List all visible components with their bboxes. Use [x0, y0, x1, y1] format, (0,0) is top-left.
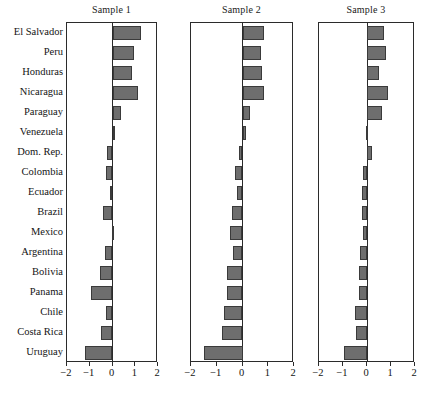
bar [113, 106, 122, 120]
x-axis-1: −2−1012 [190, 362, 293, 384]
bar [243, 66, 262, 80]
category-label: Ecuador [0, 187, 63, 198]
x-tick-label: −1 [210, 367, 221, 378]
panel-sample-3 [318, 22, 414, 362]
bar [367, 26, 384, 40]
category-label: Bolivia [0, 267, 63, 278]
category-label: Peru [0, 47, 63, 58]
bar [224, 306, 243, 320]
panel-title-2: Sample 3 [318, 4, 414, 15]
bar [227, 286, 243, 300]
bar [362, 206, 367, 220]
bar [243, 126, 246, 140]
category-label: Chile [0, 307, 63, 318]
x-tick [414, 362, 415, 366]
x-tick-label: 2 [154, 367, 159, 378]
x-tick [342, 362, 343, 366]
bar [367, 86, 388, 100]
x-tick [134, 362, 135, 366]
x-tick [112, 362, 113, 366]
category-label: Colombia [0, 167, 63, 178]
category-labels: El SalvadorPeruHondurasNicaraguaParaguay… [0, 22, 63, 362]
bar [362, 186, 367, 200]
bar [106, 306, 113, 320]
category-label: Honduras [0, 67, 63, 78]
bar [103, 206, 112, 220]
x-tick [366, 362, 367, 366]
bar [222, 326, 243, 340]
x-tick [190, 362, 191, 366]
bar [344, 346, 367, 360]
bar [366, 126, 368, 140]
bar [233, 246, 243, 260]
x-tick-label: 1 [265, 367, 270, 378]
category-label: Argentina [0, 247, 63, 258]
bar [243, 86, 265, 100]
bar [243, 46, 261, 60]
x-tick [267, 362, 268, 366]
x-tick-label: 1 [132, 367, 137, 378]
bar [367, 66, 379, 80]
x-tick-label: 0 [109, 367, 114, 378]
panel-title-1: Sample 2 [190, 4, 293, 15]
category-label: Panama [0, 287, 63, 298]
category-label: Nicaragua [0, 87, 63, 98]
x-tick-label: −2 [184, 367, 195, 378]
x-tick [242, 362, 243, 366]
x-tick-label: −1 [83, 367, 94, 378]
x-axis-0: −2−1012 [66, 362, 157, 384]
bar [112, 226, 114, 240]
bar [113, 66, 132, 80]
x-tick [66, 362, 67, 366]
x-tick-label: −2 [60, 367, 71, 378]
x-axis-2: −2−1012 [318, 362, 414, 384]
x-tick-label: 1 [387, 367, 392, 378]
bar [360, 246, 367, 260]
bar [85, 346, 112, 360]
category-label: Dom. Rep. [0, 147, 63, 158]
bar [367, 106, 382, 120]
bar [232, 206, 243, 220]
x-tick-label: 0 [363, 367, 368, 378]
bar [363, 226, 367, 240]
x-tick-label: −1 [336, 367, 347, 378]
bar [91, 286, 113, 300]
panel-sample-1 [66, 22, 157, 362]
bar [204, 346, 243, 360]
bar [230, 226, 242, 240]
category-label: El Salvador [0, 27, 63, 38]
bar [113, 46, 135, 60]
bar [110, 186, 112, 200]
category-label: Mexico [0, 227, 63, 238]
x-tick [293, 362, 294, 366]
category-label: Venezuela [0, 127, 63, 138]
x-tick-label: 0 [239, 367, 244, 378]
bar [363, 166, 367, 180]
bar [113, 86, 138, 100]
bar [235, 166, 242, 180]
bar [100, 266, 113, 280]
x-tick [89, 362, 90, 366]
x-tick-label: 2 [290, 367, 295, 378]
category-label: Brazil [0, 207, 63, 218]
bar [367, 46, 386, 60]
bar [243, 106, 251, 120]
x-tick-label: −2 [312, 367, 323, 378]
bar [101, 326, 113, 340]
bar [107, 146, 112, 160]
bar [106, 166, 112, 180]
bar [243, 26, 264, 40]
panel-title-0: Sample 1 [66, 4, 157, 15]
bar [237, 186, 242, 200]
bar [356, 326, 367, 340]
x-tick [157, 362, 158, 366]
category-label: Costa Rica [0, 327, 63, 338]
bar [113, 126, 115, 140]
bar [105, 246, 112, 260]
bar [359, 286, 367, 300]
category-label: Paraguay [0, 107, 63, 118]
category-label: Uruguay [0, 347, 63, 358]
x-tick [390, 362, 391, 366]
x-tick-label: 2 [411, 367, 416, 378]
bar [367, 146, 372, 160]
